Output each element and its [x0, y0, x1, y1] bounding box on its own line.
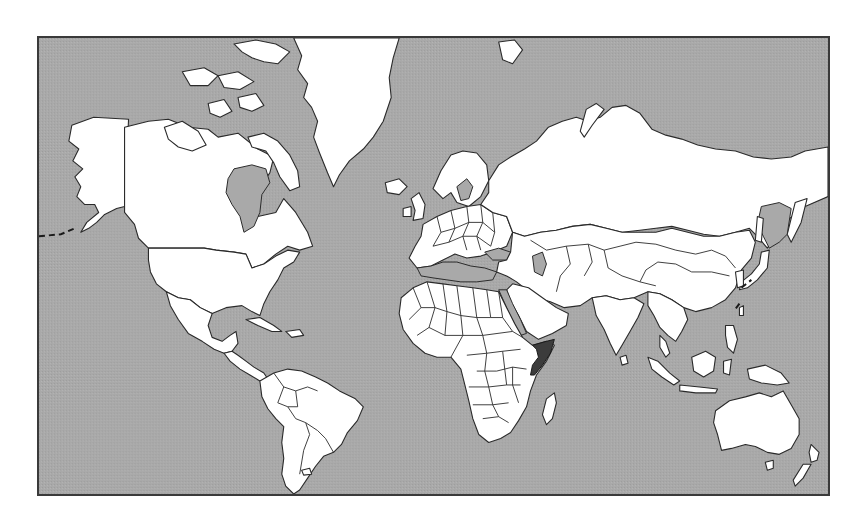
sakhalin — [755, 216, 763, 242]
tasmania — [765, 460, 773, 470]
korea — [735, 270, 743, 288]
sri-lanka — [620, 355, 628, 365]
world-map — [37, 36, 830, 496]
taiwan — [739, 306, 743, 316]
world-map-svg — [39, 38, 828, 494]
ireland — [403, 207, 411, 217]
sulawesi — [724, 359, 732, 375]
